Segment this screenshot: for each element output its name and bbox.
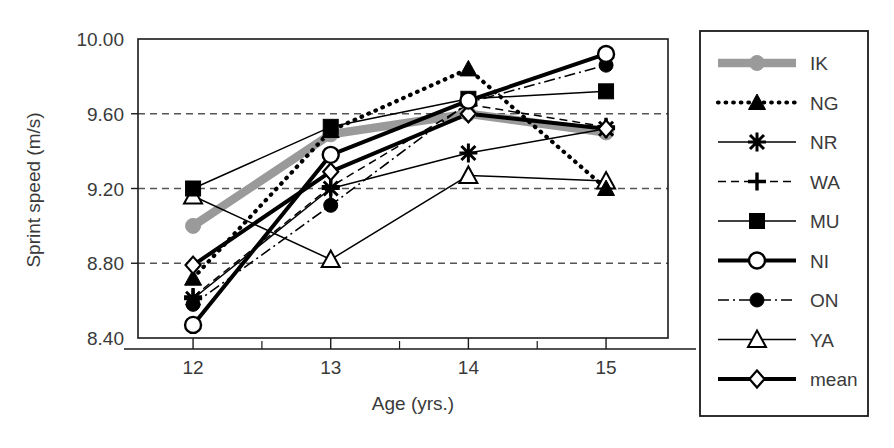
legend-label-NG: NG bbox=[810, 93, 839, 114]
legend-label-IK: IK bbox=[810, 53, 828, 74]
y-tick-label: 8.80 bbox=[87, 253, 124, 274]
datapoint-IK-12 bbox=[186, 218, 201, 233]
x-tick-label: 13 bbox=[320, 357, 341, 378]
legend-marker-ON bbox=[750, 293, 764, 307]
y-tick-label: 9.20 bbox=[87, 179, 124, 200]
datapoint-NI-14 bbox=[460, 93, 476, 109]
x-tick-label: 15 bbox=[595, 357, 616, 378]
x-tick-label: 12 bbox=[182, 357, 203, 378]
datapoint-ON-12 bbox=[186, 297, 200, 311]
sprint-speed-line-chart: 10.009.609.208.808.40 12131415 Sprint sp… bbox=[0, 0, 894, 448]
datapoint-NI-12 bbox=[185, 317, 201, 333]
legend-label-NR: NR bbox=[810, 132, 837, 153]
y-axis-title: Sprint speed (m/s) bbox=[23, 112, 44, 267]
marker-square-filled bbox=[750, 214, 765, 229]
legend-box bbox=[700, 31, 868, 416]
marker-star bbox=[748, 133, 766, 152]
x-axis-title: Age (yrs.) bbox=[372, 393, 454, 414]
figure-root: 10.009.609.208.808.40 12131415 Sprint sp… bbox=[0, 0, 894, 448]
legend-label-ON: ON bbox=[810, 290, 839, 311]
datapoint-ON-13 bbox=[324, 198, 338, 212]
y-tick-label: 10.00 bbox=[76, 29, 124, 50]
datapoint-MU-12 bbox=[186, 181, 201, 196]
marker-circle-filled bbox=[186, 297, 200, 311]
y-tick-label: 8.40 bbox=[87, 328, 124, 349]
datapoint-NI-15 bbox=[598, 46, 614, 62]
marker-square-filled bbox=[186, 181, 201, 196]
legend-label-NI: NI bbox=[810, 251, 829, 272]
marker-circle-open bbox=[749, 253, 765, 269]
legend: IKNGNRWAMUNIONYAmean bbox=[700, 31, 868, 416]
legend-label-WA: WA bbox=[810, 172, 840, 193]
legend-marker-IK bbox=[750, 56, 765, 71]
marker-circle-open bbox=[185, 317, 201, 333]
legend-marker-NR bbox=[748, 133, 766, 152]
marker-star bbox=[459, 143, 477, 162]
legend-marker-MU bbox=[750, 214, 765, 229]
legend-label-MU: MU bbox=[810, 211, 840, 232]
marker-circle-gray bbox=[750, 56, 765, 71]
x-tick-label: 14 bbox=[458, 357, 480, 378]
marker-circle-open bbox=[598, 46, 614, 62]
legend-marker-NI bbox=[749, 253, 765, 269]
datapoint-NI-13 bbox=[323, 147, 339, 163]
marker-circle-filled bbox=[750, 293, 764, 307]
datapoint-NR-14 bbox=[459, 143, 477, 162]
marker-circle-open bbox=[323, 147, 339, 163]
y-tick-label: 9.60 bbox=[87, 104, 124, 125]
chart-svg: 10.009.609.208.808.40 12131415 Sprint sp… bbox=[0, 0, 894, 448]
marker-square-filled bbox=[599, 84, 614, 99]
marker-circle-filled bbox=[324, 198, 338, 212]
legend-label-mean: mean bbox=[810, 369, 858, 390]
marker-circle-open bbox=[460, 93, 476, 109]
legend-label-YA: YA bbox=[810, 330, 834, 351]
datapoint-MU-15 bbox=[599, 84, 614, 99]
marker-circle-gray bbox=[186, 218, 201, 233]
